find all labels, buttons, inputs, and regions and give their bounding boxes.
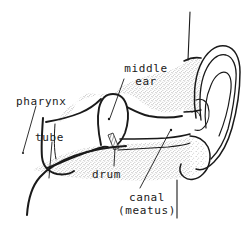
label-drum: drum [92,168,121,181]
leader-dot-middle-ear [108,118,110,120]
leader-dot-pharynx [22,152,24,154]
label-pharynx: pharynx [16,95,67,108]
mastoid-tissue [184,58,201,113]
ear-canal-roof [120,134,190,139]
label-tube: tube [35,131,64,144]
label-middle-ear: middle ear [117,62,175,88]
label-canal-line2: (meatus) [112,204,182,217]
label-middle-ear-line2: ear [117,75,175,88]
earlobe-tissue [190,138,207,176]
pinna-antihelix [205,72,231,136]
leader-dot-canal [170,129,172,131]
label-middle-ear-line1: middle [117,62,175,75]
head-outline-top [188,12,190,60]
label-canal: canal (meatus) [112,191,182,217]
label-canal-line1: canal [112,191,182,204]
leader-line-pharynx [23,106,36,152]
ear-anatomy-figure: pharynx tube middle ear drum canal (meat… [0,0,243,235]
